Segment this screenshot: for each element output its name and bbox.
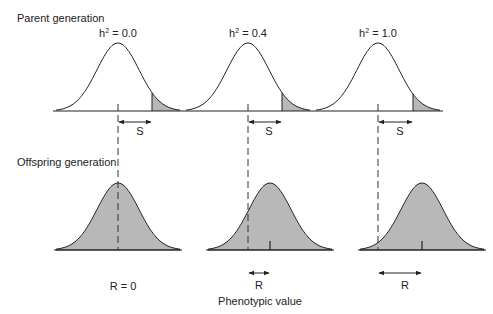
response-label-0: R = 0 (110, 280, 137, 292)
selected-tail-1 (282, 93, 310, 111)
offspring-generation-label: Offspring generation (17, 156, 116, 168)
parent-curve-1 (186, 43, 310, 110)
parent-curve-2 (316, 43, 440, 110)
selected-tail-2 (413, 94, 440, 111)
parent-generation-curves (53, 43, 443, 111)
x-axis-label: Phenotypic value (218, 295, 302, 307)
offspring-curve-2 (360, 183, 484, 250)
parent-curve-0 (56, 43, 180, 110)
response-label-2: R (401, 279, 409, 291)
selection-differential-label-1: S (265, 125, 272, 137)
offspring-curve-1 (208, 183, 332, 250)
heritability-label-0: h2 = 0.0 (99, 27, 137, 39)
selection-differential-label-2: S (396, 125, 403, 137)
heritability-label-2: h2 = 1.0 (359, 27, 397, 39)
selection-differential-label-0: S (136, 125, 143, 137)
response-label-1: R (255, 279, 263, 291)
offspring-generation-curves (54, 183, 486, 250)
parent-generation-label: Parent generation (17, 12, 104, 24)
mean-guide-lines (118, 104, 378, 250)
selected-tail-0 (152, 93, 180, 111)
heritability-label-1: h2 = 0.4 (229, 27, 267, 39)
